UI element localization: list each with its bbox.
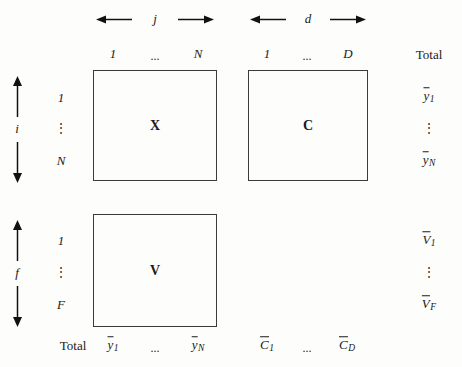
row-total-lower-first-base: V	[422, 231, 430, 247]
row-axis-arrow-i-up	[11, 75, 24, 119]
column-total-x-first-base: y	[107, 336, 113, 352]
column-total-c-last-subscript: D	[348, 343, 355, 353]
column-header-c-last: D	[343, 47, 352, 60]
total-row-label: Total	[60, 339, 87, 352]
column-header-x-last: N	[194, 47, 203, 60]
column-header-c-first: 1	[264, 47, 271, 60]
matrix-block-x: X	[93, 70, 217, 181]
row-total-upper-ellipsis: ⋮	[423, 122, 435, 134]
row-total-upper-first-subscript: 1	[430, 94, 435, 104]
row-total-upper-last: yN	[423, 151, 436, 169]
row-axis-arrow-f-down	[11, 284, 24, 328]
column-total-c-last: CD	[339, 336, 355, 354]
column-header-c-ellipsis: ...	[303, 50, 312, 62]
row-header-lower-ellipsis: ⋮	[55, 266, 67, 278]
column-total-c-ellipsis: ...	[303, 341, 312, 356]
matrix-block-v: V	[93, 214, 217, 327]
column-total-c-first-subscript: 1	[269, 343, 274, 353]
column-total-x-last-subscript: N	[198, 343, 204, 353]
column-total-c-first: C1	[260, 336, 274, 354]
column-index-label-j: j	[153, 12, 157, 25]
matrix-block-c: C	[248, 70, 368, 181]
row-axis-arrow-f-up	[11, 219, 24, 263]
matrix-block-c-label: C	[303, 118, 313, 134]
matrix-block-v-label: V	[150, 263, 160, 279]
column-total-x-last: yN	[192, 336, 205, 354]
row-total-upper-last-base: y	[423, 151, 429, 167]
column-header-x-first: 1	[110, 47, 117, 60]
row-total-upper-first: y1	[423, 87, 434, 105]
row-index-label-i: i	[15, 122, 19, 135]
row-header-upper-last: N	[57, 154, 66, 167]
column-header-x-ellipsis: ...	[151, 50, 160, 62]
column-total-c-first-base: C	[260, 336, 269, 352]
row-header-upper-ellipsis: ⋮	[55, 122, 67, 134]
row-total-upper-first-base: y	[423, 87, 429, 103]
column-total-x-first-subscript: 1	[114, 343, 119, 353]
row-total-upper-last-subscript: N	[429, 158, 435, 168]
row-total-lower-last-subscript: F	[430, 302, 436, 312]
column-total-c-last-base: C	[339, 336, 348, 352]
row-header-lower-last: F	[57, 298, 65, 311]
column-total-x-last-base: y	[192, 336, 198, 352]
matrix-block-x-label: X	[150, 118, 160, 134]
total-column-header: Total	[416, 48, 443, 61]
row-total-lower-last: VF	[422, 295, 436, 313]
column-total-x-first: y1	[107, 336, 118, 354]
row-index-label-f: f	[15, 266, 19, 279]
row-total-lower-first-subscript: 1	[431, 238, 436, 248]
row-total-lower-ellipsis: ⋮	[423, 266, 435, 278]
row-axis-arrow-i-down	[11, 140, 24, 184]
row-total-lower-last-base: V	[422, 295, 430, 311]
row-total-lower-first: V1	[422, 231, 435, 249]
matrix-layout-diagram: j d 1 ... N 1 ... D Total i	[0, 0, 462, 367]
row-header-lower-first: 1	[58, 234, 65, 247]
row-header-upper-first: 1	[58, 91, 65, 104]
column-total-x-ellipsis: ...	[151, 341, 160, 356]
column-index-label-d: d	[305, 12, 312, 25]
